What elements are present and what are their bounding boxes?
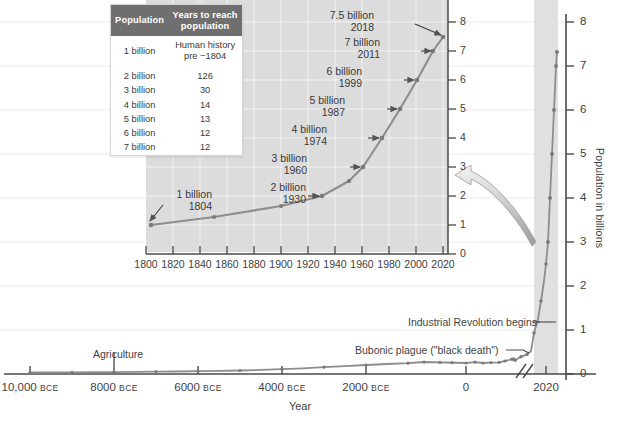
inset-xtick-1820: 1820 [161,258,184,270]
inset-label-year: 1987 [322,106,345,118]
inset-label-5-billion: 5 billion 1987 [283,94,345,118]
inset-label-1-billion: 1 billion 1804 [150,188,212,212]
cell-population: 7 billion [111,141,168,155]
inset-label-pop: 7 billion [344,36,380,48]
inset-ytick-4: 4 [460,131,466,143]
inset-label-pop: 6 billion [326,65,362,77]
table-row: 7 billion 12 [111,141,242,155]
main-y-ticks [566,22,574,374]
inset-xtick-1960: 1960 [350,258,373,270]
header-line-2: population [181,21,230,31]
inset-label-2-billion: 2 billion 1930 [244,181,306,205]
annotation-bubonic-plague: Bubonic plague ("black death") [355,344,498,356]
table-row: 5 billion 13 [111,112,242,126]
inset-label-pop: 1 billion [176,188,212,200]
inset-label-year: 1804 [189,200,212,212]
cell-population: 5 billion [111,112,168,126]
plague-leader [506,350,529,353]
table-header-row: Population Years to reach population [111,5,242,36]
inset-ytick-5: 5 [460,102,466,114]
inset-ytick-3: 3 [460,160,466,172]
inset-xtick-1940: 1940 [323,258,346,270]
main-xtick-4000-bce: 4000 BCE [258,381,305,394]
inset-label-pop: 7.5 billion [330,9,374,21]
tick-era: BCE [40,383,59,393]
main-ytick-5: 5 [580,147,586,160]
main-x-axis-title: Year [289,400,311,413]
inset-ytick-8: 8 [460,15,466,27]
annotation-agriculture: Agriculture [93,348,143,360]
inset-label-year: 1974 [304,135,327,147]
inset-label-year: 2018 [351,21,374,33]
cell-population: 6 billion [111,126,168,140]
header-line-1: Years to reach [173,10,238,20]
tick-era: BCE [203,383,222,393]
inset-ytick-2: 2 [460,189,466,201]
inset-y-ticks [448,22,456,254]
inset-ytick-1: 1 [460,218,466,230]
tick-number: 10,000 [2,381,37,393]
cell-population: 4 billion [111,98,168,112]
inset-xtick-1980: 1980 [377,258,400,270]
inset-ytick-7: 7 [460,44,466,56]
cell-population: 2 billion [111,66,168,84]
main-xtick-2000-bce: 2000 BCE [342,381,389,394]
tick-number: 2000 [342,381,368,393]
inset-xtick-1880: 1880 [242,258,265,270]
inset-label-pop: 4 billion [291,123,327,135]
tick-number: 2020 [533,381,559,393]
main-xtick-6000-bce: 6000 BCE [174,381,221,394]
tick-era: BCE [287,383,306,393]
main-ytick-8: 8 [580,15,586,28]
table-row: 6 billion 12 [111,126,242,140]
table-header-years: Years to reach population [168,5,242,36]
cell-years: Human history pre −1804 [168,36,242,66]
tick-number: 8000 [90,381,116,393]
inset-label-7_5-billion: 7.5 billion 2018 [308,9,374,33]
cell-population: 3 billion [111,84,168,98]
inset-label-6-billion: 6 billion 1999 [300,65,362,89]
main-ytick-3: 3 [580,235,586,248]
inset-label-pop: 3 billion [271,152,307,164]
population-milestones-table: Population Years to reach population 1 b… [110,4,243,156]
inset-xtick-1920: 1920 [296,258,319,270]
tick-number: 0 [463,381,469,393]
cell-years: 12 [168,141,242,155]
inset-label-pop: 2 billion [270,181,306,193]
inset-xtick-1840: 1840 [188,258,211,270]
years-line-1: Human history [175,40,235,50]
main-xtick-8000-bce: 8000 BCE [90,381,137,394]
main-xtick-2020: 2020 [533,381,559,394]
inset-ytick-0: 0 [460,247,466,259]
tick-era: BCE [371,383,390,393]
main-ytick-7: 7 [580,59,586,72]
inset-label-year: 1999 [339,77,362,89]
inset-label-4-billion: 4 billion 1974 [265,123,327,147]
table-header-population: Population [111,5,168,36]
cell-years: 126 [168,66,242,84]
inset-xtick-2000: 2000 [404,258,427,270]
main-ytick-2: 2 [580,279,586,292]
table-row: 1 billion Human history pre −1804 [111,36,242,66]
inset-label-year: 2011 [357,48,380,60]
main-ytick-6: 6 [580,103,586,116]
inset-label-year: 1930 [283,193,306,205]
main-ytick-4: 4 [580,191,586,204]
tick-number: 6000 [174,381,200,393]
inset-label-year: 1960 [284,164,307,176]
population-growth-figure: 7.5 billion 2018 7 billion 2011 6 billio… [0,0,618,428]
cell-years: 14 [168,98,242,112]
inset-ytick-6: 6 [460,73,466,85]
annotation-industrial-revolution: Industrial Revolution begins [408,316,537,328]
cell-years: 13 [168,112,242,126]
main-xtick-10000-bce: 10,000 BCE [2,381,59,394]
inset-label-3-billion: 3 billion 1960 [245,152,307,176]
table-row: 2 billion 126 [111,66,242,84]
inset-xtick-2020: 2020 [431,258,454,270]
inset-xtick-1900: 1900 [269,258,292,270]
main-ytick-0: 0 [580,367,586,380]
main-ytick-1: 1 [580,323,586,336]
main-y-axis-title: Population in billions [594,148,606,248]
inset-xtick-1800: 1800 [134,258,157,270]
inset-label-7-billion: 7 billion 2011 [318,36,380,60]
